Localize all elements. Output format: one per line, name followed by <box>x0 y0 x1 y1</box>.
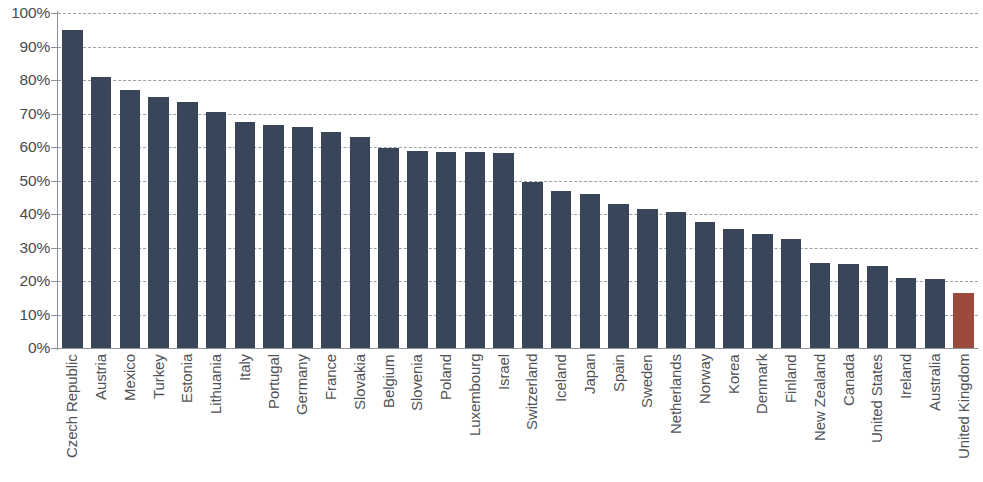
bar <box>378 148 399 348</box>
x-tick-label: Slovakia <box>352 354 367 410</box>
x-tick-label: Mexico <box>122 354 137 401</box>
bar <box>436 152 457 348</box>
gridline-0 <box>58 348 978 349</box>
x-tick-label: Iceland <box>553 354 568 402</box>
y-tick-mark-40 <box>51 214 58 215</box>
bar-chart: 100%90%80%70%60%50%40%30%20%10%0% Czech … <box>0 0 983 482</box>
bar <box>235 122 256 348</box>
bar <box>723 229 744 348</box>
bar <box>120 90 141 348</box>
bar <box>580 194 601 348</box>
gridline-90 <box>58 47 978 48</box>
y-tick-mark-100 <box>51 13 58 14</box>
x-tick-label: Finland <box>783 355 798 404</box>
bar <box>263 125 284 348</box>
x-tick-label: Switzerland <box>524 354 539 430</box>
x-tick-label: Portugal <box>266 354 281 409</box>
bar <box>781 239 802 348</box>
bar <box>493 153 514 348</box>
y-tick-label-100: 100% <box>2 5 50 21</box>
y-tick-label-90: 90% <box>2 39 50 55</box>
bar <box>695 222 716 348</box>
bar <box>551 191 572 348</box>
bar <box>608 204 629 348</box>
bar <box>407 151 428 348</box>
y-tick-mark-80 <box>51 80 58 81</box>
x-tick-label: Belgium <box>381 355 396 409</box>
bar <box>637 209 658 348</box>
y-tick-label-60: 60% <box>2 139 50 155</box>
x-tick-label: Sweden <box>639 354 654 408</box>
y-tick-label-50: 50% <box>2 173 50 189</box>
x-tick-label: Japan <box>582 354 597 394</box>
y-tick-mark-50 <box>51 181 58 182</box>
x-tick-label: Spain <box>611 354 626 392</box>
y-tick-label-0: 0% <box>2 340 50 356</box>
x-tick-label: Austria <box>93 354 108 400</box>
y-tick-mark-60 <box>51 147 58 148</box>
x-axis-labels: Czech RepublicAustriaMexicoTurkeyEstonia… <box>58 352 978 482</box>
bar <box>62 30 83 348</box>
x-tick-label: Lithuania <box>208 354 223 414</box>
y-tick-mark-20 <box>51 281 58 282</box>
bar <box>321 132 342 348</box>
bar <box>350 137 371 348</box>
y-tick-mark-90 <box>51 47 58 48</box>
x-tick-label: Estonia <box>179 354 194 403</box>
bar <box>465 152 486 348</box>
bar <box>925 279 946 348</box>
x-tick-label: Turkey <box>151 354 166 399</box>
x-tick-label: Ireland <box>898 354 913 399</box>
bar <box>838 264 859 348</box>
x-tick-label: United States <box>869 354 884 443</box>
y-tick-mark-10 <box>51 315 58 316</box>
bar <box>896 278 917 348</box>
bar <box>206 112 227 348</box>
x-tick-label: Denmark <box>754 354 769 414</box>
y-tick-mark-70 <box>51 114 58 115</box>
x-tick-label: Canada <box>841 354 856 406</box>
bar <box>91 77 112 348</box>
y-tick-label-20: 20% <box>2 273 50 289</box>
x-tick-label: Luxembourg <box>467 354 482 436</box>
x-tick-label: Korea <box>726 354 741 394</box>
y-tick-mark-0 <box>51 348 58 349</box>
x-tick-label: Poland <box>438 354 453 400</box>
x-tick-label: Norway <box>697 354 712 404</box>
bar <box>292 127 313 348</box>
y-tick-mark-30 <box>51 248 58 249</box>
y-tick-label-40: 40% <box>2 206 50 222</box>
y-tick-label-10: 10% <box>2 307 50 323</box>
bar <box>522 182 543 348</box>
x-tick-label: Italy <box>237 354 252 381</box>
bar <box>148 97 169 348</box>
bar <box>752 234 773 348</box>
gridline-100 <box>58 13 978 14</box>
gridline-80 <box>58 80 978 81</box>
bar <box>953 293 974 348</box>
y-tick-label-30: 30% <box>2 240 50 256</box>
bar <box>810 263 831 348</box>
y-tick-label-70: 70% <box>2 106 50 122</box>
x-tick-label: Germany <box>294 354 309 415</box>
x-tick-label: New Zealand <box>812 354 827 441</box>
x-tick-label: Australia <box>927 354 942 411</box>
x-tick-label: Netherlands <box>668 354 683 434</box>
y-tick-label-80: 80% <box>2 72 50 88</box>
x-tick-label: Slovenia <box>409 354 424 411</box>
bar <box>867 266 888 348</box>
plot-area <box>58 13 978 348</box>
y-axis-labels: 100%90%80%70%60%50%40%30%20%10%0% <box>0 0 50 482</box>
x-tick-label: France <box>323 354 338 400</box>
x-tick-label: United Kingdom <box>956 354 971 459</box>
x-tick-label: Israel <box>496 354 511 390</box>
x-tick-label: Czech Republic <box>64 354 79 458</box>
bar <box>177 102 198 348</box>
bar <box>666 212 687 348</box>
